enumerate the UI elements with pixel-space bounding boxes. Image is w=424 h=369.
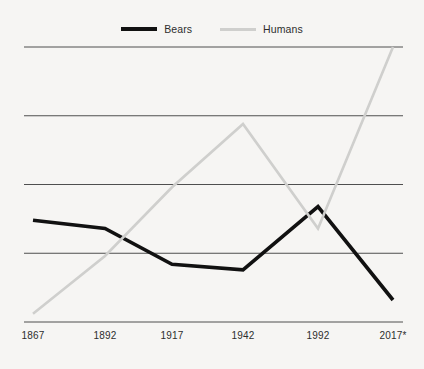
x-axis-tick-labels: 186718921917194219922017* xyxy=(0,331,424,351)
gridline-group xyxy=(24,47,403,322)
series-line-humans[interactable] xyxy=(33,47,393,314)
line-chart-figure: Bears Humans 186718921917194219922017* xyxy=(0,0,424,369)
x-tick-label-1892: 1892 xyxy=(93,331,116,341)
plot-area xyxy=(0,0,424,369)
x-tick-label-1917: 1917 xyxy=(160,331,183,341)
x-tick-label-1867: 1867 xyxy=(21,331,44,341)
plot-svg xyxy=(0,0,424,369)
x-tick-label-2017proj: 2017* xyxy=(379,331,406,341)
x-tick-label-1992: 1992 xyxy=(306,331,329,341)
x-tick-label-1942: 1942 xyxy=(231,331,254,341)
series-line-group xyxy=(33,47,393,314)
